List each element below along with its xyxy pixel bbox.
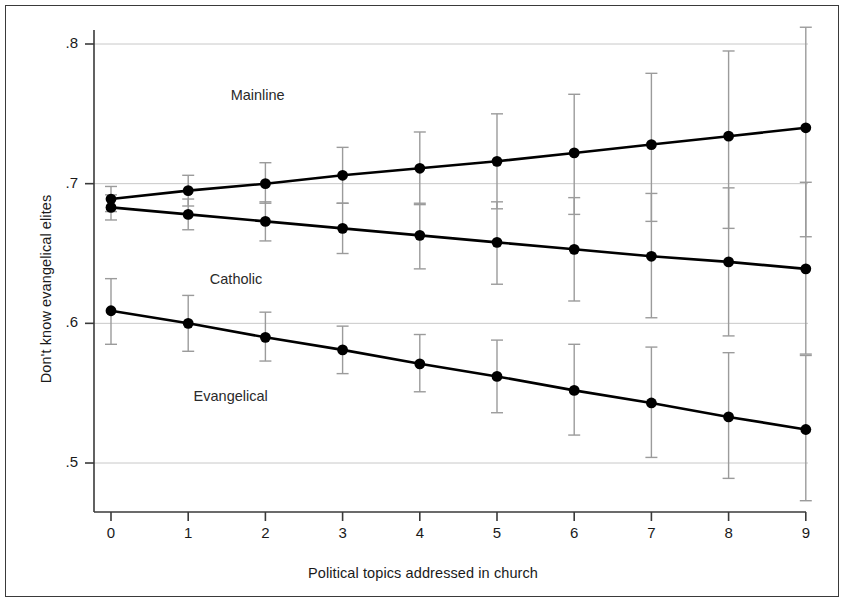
data-point-mainline-3 [337, 170, 348, 181]
data-point-evangelical-1 [183, 318, 194, 329]
data-point-mainline-4 [414, 163, 425, 174]
series-line-mainline [111, 128, 806, 199]
data-point-catholic-8 [723, 256, 734, 267]
data-point-evangelical-0 [106, 305, 117, 316]
data-point-catholic-5 [492, 237, 503, 248]
x-tick-label-9: 9 [791, 524, 821, 541]
data-point-catholic-9 [800, 263, 811, 274]
data-point-catholic-2 [260, 216, 271, 227]
y-tick-label-1: .7 [38, 174, 78, 191]
x-tick-label-3: 3 [328, 524, 358, 541]
data-point-evangelical-7 [646, 398, 657, 409]
series-label-mainline: Mainline [231, 87, 285, 103]
y-tick-label-2: .6 [38, 313, 78, 330]
figure-container: Don't know evangelical elites Political … [0, 0, 846, 603]
series-line-catholic [111, 207, 806, 268]
data-point-evangelical-2 [260, 332, 271, 343]
data-point-mainline-9 [800, 122, 811, 133]
y-tick-label-0: .8 [38, 34, 78, 51]
x-tick-label-8: 8 [714, 524, 744, 541]
data-point-catholic-7 [646, 251, 657, 262]
data-point-catholic-6 [569, 244, 580, 255]
data-point-mainline-5 [492, 156, 503, 167]
data-point-evangelical-4 [414, 358, 425, 369]
series-line-evangelical [111, 311, 806, 430]
x-tick-label-7: 7 [636, 524, 666, 541]
series-label-catholic: Catholic [210, 271, 262, 287]
chart-plot-area [0, 0, 846, 603]
data-point-catholic-3 [337, 223, 348, 234]
data-point-catholic-0 [106, 202, 117, 213]
y-tick-label-3: .5 [38, 453, 78, 470]
data-point-evangelical-5 [492, 371, 503, 382]
data-point-evangelical-6 [569, 385, 580, 396]
x-tick-label-1: 1 [173, 524, 203, 541]
data-point-catholic-1 [183, 209, 194, 220]
x-tick-label-6: 6 [559, 524, 589, 541]
data-point-mainline-2 [260, 178, 271, 189]
data-point-mainline-6 [569, 148, 580, 159]
data-point-evangelical-8 [723, 412, 734, 423]
x-tick-label-0: 0 [96, 524, 126, 541]
data-point-mainline-7 [646, 139, 657, 150]
data-point-mainline-8 [723, 131, 734, 142]
x-tick-label-5: 5 [482, 524, 512, 541]
data-point-mainline-1 [183, 185, 194, 196]
data-point-catholic-4 [414, 230, 425, 241]
x-axis-title: Political topics addressed in church [0, 565, 846, 581]
data-point-evangelical-3 [337, 344, 348, 355]
x-tick-label-2: 2 [250, 524, 280, 541]
errorbar-group-mainline [105, 27, 812, 237]
data-point-evangelical-9 [800, 424, 811, 435]
series-label-evangelical: Evangelical [194, 388, 268, 404]
x-tick-label-4: 4 [405, 524, 435, 541]
